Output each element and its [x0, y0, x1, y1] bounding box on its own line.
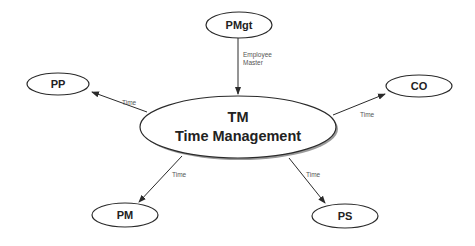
node-ps-label: PS	[338, 210, 353, 222]
time-management-diagram: Employee Master Time Time Time Time TM T…	[0, 0, 475, 246]
node-pp-label: PP	[51, 78, 66, 90]
node-tm: TM Time Management	[140, 96, 338, 160]
node-pm: PM	[92, 203, 158, 227]
edge-tm-to-pm	[139, 156, 182, 202]
edge-tm-to-pp	[92, 92, 147, 112]
edge-label-master: Master	[243, 59, 264, 66]
node-tm-shape	[140, 96, 336, 158]
edge-tm-to-ps	[289, 158, 325, 203]
edge-label-employee: Employee	[243, 51, 272, 59]
node-ps: PS	[312, 204, 378, 228]
edge-label-time-pp: Time	[122, 99, 137, 106]
node-pmgt: PMgt	[206, 12, 272, 38]
node-pmgt-label: PMgt	[226, 19, 253, 31]
node-pm-label: PM	[117, 209, 134, 221]
node-co: CO	[386, 75, 452, 97]
node-tm-abbr: TM	[228, 109, 249, 125]
edge-label-time-co: Time	[360, 111, 375, 118]
node-pp: PP	[27, 73, 89, 95]
edge-label-time-ps: Time	[306, 171, 321, 178]
node-co-label: CO	[411, 80, 428, 92]
edge-tm-to-co	[333, 94, 385, 115]
edge-label-time-pm: Time	[172, 171, 187, 178]
node-tm-title: Time Management	[175, 128, 301, 144]
